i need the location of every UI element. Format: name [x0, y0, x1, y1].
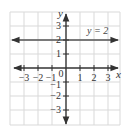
- y-tick-label: 3: [56, 20, 61, 31]
- x-tick-label: 3: [106, 72, 111, 83]
- y-tick-label: −1: [50, 79, 61, 90]
- x-tick-label: 1: [78, 72, 83, 83]
- y-tick-label: −2: [50, 90, 61, 101]
- x-tick-label: 2: [92, 72, 97, 83]
- coordinate-graph: −3 −2 −1 1 2 3 0 3 2 1 −1 −2 −3 x y y = …: [0, 0, 127, 128]
- y-tick-label: −3: [50, 104, 61, 115]
- x-tick-label: −3: [19, 72, 30, 83]
- y-axis-label: y: [57, 7, 63, 19]
- x-axis-label: x: [115, 68, 121, 80]
- line-equation-label: y = 2: [86, 25, 108, 36]
- origin-label: 0: [59, 68, 64, 79]
- y-tick-label: 2: [56, 34, 61, 45]
- x-tick-label: −2: [33, 72, 44, 83]
- y-tick-label: 1: [56, 48, 61, 59]
